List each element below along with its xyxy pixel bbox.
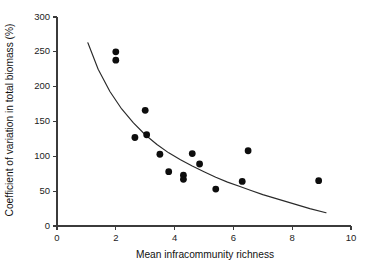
x-tick-label-8: 8 [290, 232, 295, 243]
scatter-plot-figure: 050100150200250300 0246810 Mean infracom… [0, 0, 365, 271]
fitted-decay-curve [88, 43, 326, 213]
y-tick-label-150: 150 [34, 115, 50, 126]
x-tick-label-0: 0 [54, 232, 59, 243]
data-point [142, 107, 149, 114]
x-axis-ticks: 0246810 [54, 226, 356, 243]
data-point [143, 131, 150, 138]
y-tick-label-0: 0 [45, 220, 50, 231]
y-axis-group: 050100150200250300 [34, 11, 57, 231]
y-tick-label-50: 50 [39, 185, 50, 196]
data-point [245, 147, 252, 154]
y-tick-label-300: 300 [34, 11, 50, 22]
data-point [180, 176, 187, 183]
data-point [212, 186, 219, 193]
x-axis-group: 0246810 [54, 226, 356, 243]
y-axis-ticks: 050100150200250300 [34, 11, 57, 231]
data-point [189, 150, 196, 157]
data-point [196, 161, 203, 168]
x-tick-label-6: 6 [231, 232, 236, 243]
x-tick-label-4: 4 [172, 232, 177, 243]
x-tick-label-2: 2 [113, 232, 118, 243]
data-point [112, 57, 119, 64]
data-point [157, 151, 164, 158]
data-point [132, 134, 139, 141]
data-point [239, 178, 246, 185]
data-point [165, 168, 172, 175]
y-tick-label-200: 200 [34, 80, 50, 91]
data-point [112, 48, 119, 55]
y-tick-label-250: 250 [34, 45, 50, 56]
y-tick-label-100: 100 [34, 150, 50, 161]
x-axis-title: Mean infracommunity richness [136, 249, 274, 260]
x-tick-label-10: 10 [346, 232, 357, 243]
y-axis-title: Coefficient of variation in total biomas… [4, 24, 15, 217]
data-points-group [112, 48, 322, 192]
data-point [315, 177, 322, 184]
chart-canvas: 050100150200250300 0246810 Mean infracom… [0, 0, 365, 271]
